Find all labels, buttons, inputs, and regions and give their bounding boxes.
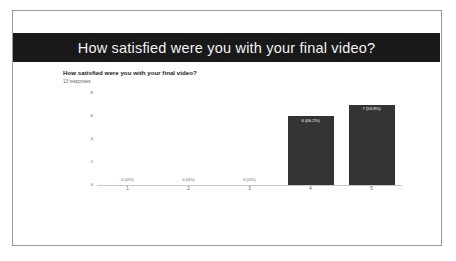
y-axis-tick: 2 <box>81 160 93 164</box>
chart-response-count: 13 responses <box>63 79 408 84</box>
y-axis: 8 6 4 2 0 <box>79 93 93 185</box>
bar-value-label: 0 (0%) <box>121 178 133 182</box>
x-axis-tick: 1 <box>97 187 158 192</box>
bar-value-label: 7 (53.8%) <box>362 107 380 111</box>
slide-title-banner: How satisfied were you with your final v… <box>13 33 440 62</box>
bar-slot: 7 (53.8%) <box>341 93 402 185</box>
presentation-slide: How satisfied were you with your final v… <box>12 10 442 246</box>
bar-category-4: 6 (46.2%) <box>288 116 334 185</box>
bar-slot: 0 (0%) <box>219 93 280 185</box>
form-results-chart: How satisfied were you with your final v… <box>63 69 408 209</box>
x-axis-tick: 3 <box>219 187 280 192</box>
y-axis-tick: 0 <box>81 183 93 187</box>
bar-value-label: 0 (0%) <box>182 178 194 182</box>
y-axis-tick: 6 <box>81 114 93 118</box>
bar-category-5: 7 (53.8%) <box>349 105 395 186</box>
bar-value-label: 0 (0%) <box>243 178 255 182</box>
bar-value-label: 6 (46.2%) <box>301 119 319 123</box>
bar-slot: 0 (0%) <box>158 93 219 185</box>
x-axis-tick: 5 <box>341 187 402 192</box>
x-axis-tick: 4 <box>280 187 341 192</box>
bar-slot: 0 (0%) <box>97 93 158 185</box>
y-axis-tick: 8 <box>81 91 93 95</box>
x-axis-tick: 2 <box>158 187 219 192</box>
x-axis: 1 2 3 4 5 <box>97 187 402 197</box>
slide-title-text: How satisfied were you with your final v… <box>78 40 376 56</box>
chart-question-title: How satisfied were you with your final v… <box>63 69 408 77</box>
chart-bars: 0 (0%) 0 (0%) 0 (0%) 6 (46.2%) 7 (53.8%) <box>97 93 402 185</box>
chart-plot-area: 8 6 4 2 0 0 (0%) 0 (0%) 0 (0%) <box>63 93 408 205</box>
bar-slot: 6 (46.2%) <box>280 93 341 185</box>
y-axis-tick: 4 <box>81 137 93 141</box>
